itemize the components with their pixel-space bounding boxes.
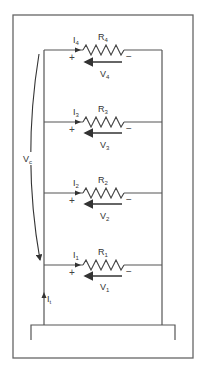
- minus-sign: −: [126, 194, 132, 205]
- resistor-label-r2: R2: [98, 175, 109, 186]
- voltage-label-v4: V4: [100, 69, 110, 80]
- current-arrow-icon: [75, 263, 81, 268]
- branch-r4: I4 R4 V4 + −: [44, 32, 162, 80]
- circuit-diagram: I4 R4 V4 + − I3 R3 V3 + − I2 R2 V2 + −: [0, 0, 205, 371]
- current-arrow-icon: [75, 191, 81, 196]
- source-current-label: It: [47, 294, 52, 305]
- source-current-arrow-icon: [42, 292, 47, 298]
- current-label-i4: I4: [73, 35, 80, 46]
- resistor-label-r4: R4: [98, 32, 109, 43]
- branch-r3: I3 R3 V3 + −: [44, 104, 162, 151]
- minus-sign: −: [126, 51, 132, 62]
- voltage-label-v3: V3: [100, 140, 110, 151]
- current-label-i3: I3: [73, 107, 80, 118]
- current-label-i2: I2: [73, 178, 80, 189]
- branch-r1: I1 R1 V1 + −: [44, 247, 162, 293]
- plus-sign: +: [69, 52, 75, 63]
- minus-sign: −: [126, 266, 132, 277]
- current-arrow-icon: [75, 48, 81, 53]
- voltage-label-v2: V2: [100, 211, 110, 222]
- outer-frame: [13, 15, 193, 358]
- plus-sign: +: [69, 195, 75, 206]
- current-label-i1: I1: [73, 250, 80, 261]
- resistor-r2-icon: [83, 188, 124, 198]
- branch-r2: I2 R2 V2 + −: [44, 175, 162, 222]
- resistor-r1-icon: [83, 260, 124, 270]
- current-arrow-icon: [75, 120, 81, 125]
- resistor-label-r1: R1: [98, 247, 109, 258]
- resistor-r3-icon: [83, 117, 124, 127]
- resistor-r4-icon: [83, 45, 124, 55]
- resistor-label-r3: R3: [98, 104, 109, 115]
- plus-sign: +: [69, 124, 75, 135]
- source-base: [31, 325, 175, 340]
- plus-sign: +: [69, 267, 75, 278]
- minus-sign: −: [126, 123, 132, 134]
- voltage-label-v1: V1: [100, 282, 110, 293]
